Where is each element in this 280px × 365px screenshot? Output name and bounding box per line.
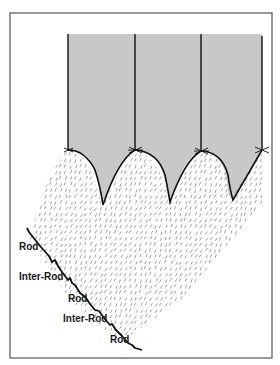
label-inter-rod-2: Inter-Rod xyxy=(63,313,107,324)
label-rod-3: Rod xyxy=(110,334,129,345)
label-rod-2: Rod xyxy=(68,293,87,304)
label-rod-1: Rod xyxy=(19,241,38,252)
enamel-rod-diagram: Rod Inter-Rod Rod Inter-Rod Rod xyxy=(0,0,280,365)
label-inter-rod-1: Inter-Rod xyxy=(19,271,63,282)
